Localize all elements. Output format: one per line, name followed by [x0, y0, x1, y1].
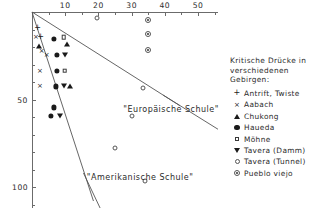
- legend-entry: +Antrift, Twiste: [230, 88, 319, 99]
- data-point: [62, 52, 68, 57]
- x-tick-minor: [215, 12, 216, 15]
- x-tick: [165, 12, 166, 16]
- legend: Kritische Drücke in verschiedenen Gebirg…: [230, 56, 319, 179]
- data-point: [129, 114, 134, 119]
- filled-circle-icon: [230, 125, 244, 130]
- x-tick-minor: [115, 12, 116, 15]
- data-point: ×: [37, 83, 43, 89]
- data-point: [61, 84, 67, 89]
- data-point: +: [34, 25, 41, 31]
- data-point: [54, 68, 59, 73]
- reference-line: [32, 12, 180, 106]
- y-tick-minor: [32, 117, 35, 118]
- y-tick-minor: [32, 82, 35, 83]
- data-point: ×: [37, 68, 43, 74]
- data-point: ×: [33, 34, 39, 40]
- x-tick-label: 20: [93, 1, 104, 10]
- data-point: ×: [44, 52, 50, 58]
- x-tick: [132, 12, 133, 16]
- legend-entry: Pueblo viejo: [230, 168, 319, 179]
- y-tick: [32, 100, 36, 101]
- data-point: [67, 84, 73, 89]
- data-point: [57, 114, 63, 119]
- cross-icon: ×: [230, 102, 244, 108]
- y-tick-minor: [32, 65, 35, 66]
- data-point: [95, 16, 100, 21]
- legend-entry-label: Tavera (Damm): [244, 146, 306, 155]
- x-tick-label: 50: [193, 1, 204, 10]
- y-tick-minor: [32, 135, 35, 136]
- legend-entry: Haueda: [230, 122, 319, 133]
- chart-figure: 102030405050100 ++××××× "Europäische Sch…: [0, 0, 319, 224]
- plot-area: 102030405050100 ++××××× "Europäische Sch…: [32, 12, 218, 208]
- data-point: [113, 145, 118, 150]
- legend-entry: Tavera (Tunnel): [230, 156, 319, 167]
- data-point: [51, 105, 56, 110]
- data-point: [36, 44, 42, 49]
- data-point: [63, 68, 68, 73]
- open-square-icon: [230, 137, 244, 142]
- legend-entry: Chukong: [230, 111, 319, 122]
- data-point: [54, 52, 59, 57]
- legend-entry-label: Haueda: [244, 123, 275, 132]
- y-tick-minor: [32, 205, 35, 206]
- annotation-label: "Europäische Schule": [123, 105, 219, 114]
- data-point: [48, 114, 53, 119]
- legend-entry-label: Aabach: [244, 100, 274, 109]
- data-point: [51, 37, 56, 42]
- x-tick-label: 10: [60, 1, 71, 10]
- y-tick-label: 50: [12, 95, 28, 104]
- x-tick-minor: [181, 12, 182, 15]
- legend-entry-label: Chukong: [244, 112, 279, 121]
- legend-title: Kritische Drücke in verschiedenen Gebirg…: [230, 56, 319, 85]
- plus-icon: +: [230, 90, 244, 96]
- annotation-label: "Amerikanische Schule": [87, 173, 194, 182]
- legend-entry-label: Antrift, Twiste: [244, 89, 300, 98]
- y-tick-minor: [32, 152, 35, 153]
- legend-entry-label: Tavera (Tunnel): [244, 157, 306, 166]
- y-tick: [32, 187, 36, 188]
- x-tick-label: 30: [126, 1, 137, 10]
- x-tick-minor: [148, 12, 149, 15]
- legend-entry: Tavera (Damm): [230, 145, 319, 156]
- y-tick-minor: [32, 47, 35, 48]
- data-point: [62, 35, 67, 40]
- x-tick-minor: [49, 12, 50, 15]
- open-circle-icon: [230, 159, 244, 164]
- legend-entry-label: Möhne: [244, 135, 271, 144]
- data-point: [145, 47, 151, 53]
- legend-entry-label: Pueblo viejo: [244, 169, 293, 178]
- data-point: [64, 41, 70, 46]
- legend-entry: Möhne: [230, 133, 319, 144]
- legend-entries: +Antrift, Twiste×AabachChukongHauedaMöhn…: [230, 88, 319, 179]
- y-tick-minor: [32, 170, 35, 171]
- data-point: [145, 17, 151, 23]
- x-tick: [198, 12, 199, 16]
- triangle-down-icon: [230, 148, 244, 153]
- dotted-circle-icon: [230, 170, 244, 176]
- x-tick: [65, 12, 66, 16]
- x-tick-minor: [82, 12, 83, 15]
- y-tick-label: 100: [12, 183, 28, 192]
- legend-entry: ×Aabach: [230, 99, 319, 110]
- data-point: [141, 86, 146, 91]
- data-point: [145, 31, 151, 37]
- x-tick-label: 40: [159, 1, 170, 10]
- triangle-up-icon: [230, 114, 244, 119]
- data-point: [54, 84, 59, 89]
